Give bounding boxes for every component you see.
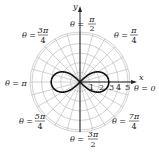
tick-3: 3 — [109, 83, 114, 92]
tick-1: 1 — [89, 83, 94, 92]
svg-text:θ =: θ = — [22, 31, 36, 40]
label-theta-0: θ = 0 — [134, 84, 156, 93]
label-theta-5pi-4: θ = 5π 4 — [19, 112, 46, 131]
svg-text:4: 4 — [37, 122, 42, 131]
label-theta-pi: θ = π — [5, 79, 28, 88]
tick-2: 2 — [99, 83, 104, 92]
svg-text:4: 4 — [131, 122, 136, 131]
svg-text:4: 4 — [40, 36, 45, 45]
svg-text:4: 4 — [131, 36, 136, 45]
svg-text:θ =: θ = — [112, 117, 126, 126]
label-theta-7pi-4: θ = 7π 4 — [112, 112, 140, 131]
y-axis-label: y — [72, 2, 78, 11]
svg-text:5π: 5π — [35, 112, 46, 121]
svg-text:π: π — [88, 15, 95, 24]
svg-text:3π: 3π — [88, 130, 99, 139]
label-theta-pi-4: θ = π 4 — [114, 26, 138, 45]
tick-5: 5 — [125, 83, 130, 92]
svg-text:θ =: θ = — [19, 117, 33, 126]
svg-text:2: 2 — [90, 140, 95, 149]
svg-text:θ =: θ = — [114, 31, 128, 40]
svg-text:θ =: θ = — [70, 135, 84, 144]
svg-text:θ =: θ = — [70, 20, 84, 29]
label-theta-3pi-2: θ = 3π 2 — [70, 130, 99, 149]
label-theta-pi-2: θ = π 2 — [70, 15, 96, 33]
x-axis-label: x — [139, 73, 144, 82]
svg-text:3π: 3π — [38, 26, 49, 35]
label-theta-3pi-4: θ = 3π 4 — [22, 26, 49, 45]
polar-chart: y x 1 2 3 4 5 θ = 0 θ = π θ = π 2 θ = 3π… — [0, 0, 159, 156]
y-axis-arrow-icon — [78, 6, 82, 12]
svg-text:π: π — [130, 26, 137, 35]
svg-text:2: 2 — [89, 24, 94, 33]
tick-4: 4 — [116, 83, 121, 92]
svg-text:7π: 7π — [129, 112, 140, 121]
